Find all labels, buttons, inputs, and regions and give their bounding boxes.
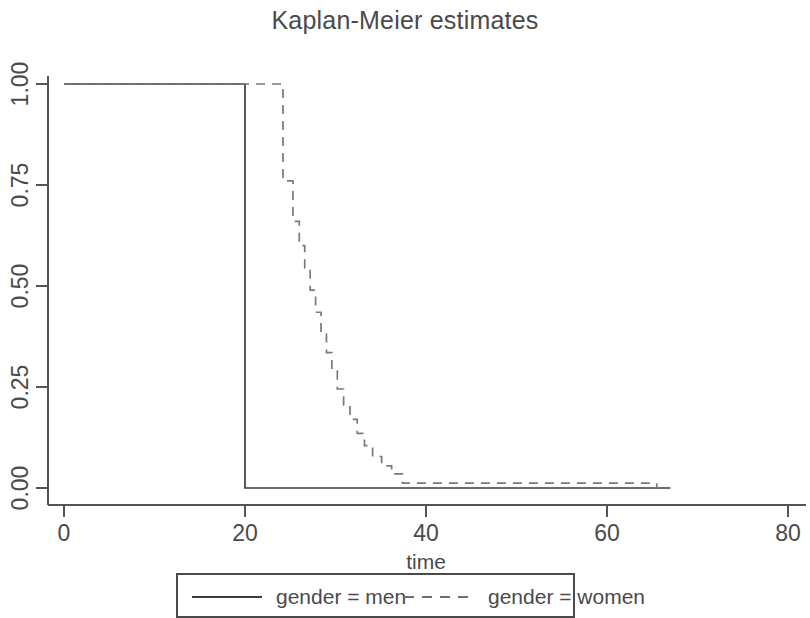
y-tick-label: 0.75 (7, 163, 33, 208)
x-tick-label: 40 (413, 520, 439, 546)
x-tick-label: 0 (58, 520, 71, 546)
kaplan-meier-figure: Kaplan-Meier estimates 1.00 0.75 0.50 (0, 0, 810, 618)
x-axis-title: time (406, 550, 446, 573)
legend: gender = men gender = women (177, 574, 645, 617)
x-tick-label: 60 (594, 520, 620, 546)
x-tick-label: 80 (775, 520, 801, 546)
y-tick-label: 0.25 (7, 365, 33, 410)
x-axis-tick-labels: 0 20 40 60 80 (58, 520, 801, 546)
x-axis-ticks (64, 505, 788, 517)
series-line-women (64, 84, 657, 488)
legend-label-men: gender = men (276, 585, 406, 608)
legend-label-women: gender = women (488, 585, 645, 608)
y-tick-label: 0.50 (7, 264, 33, 309)
y-axis-ticks (36, 84, 48, 488)
plot-canvas: 1.00 0.75 0.50 0.25 0.00 0 20 40 60 80 t… (0, 0, 810, 618)
series-line-men (64, 84, 670, 488)
y-tick-label: 0.00 (7, 466, 33, 511)
y-axis-tick-labels: 1.00 0.75 0.50 0.25 0.00 (7, 62, 33, 511)
x-tick-label: 20 (232, 520, 258, 546)
y-tick-label: 1.00 (7, 62, 33, 107)
